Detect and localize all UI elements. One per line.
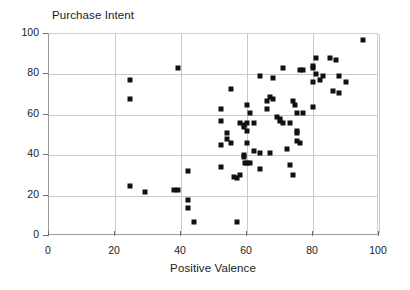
gridline-vertical: [379, 34, 380, 234]
data-point: [251, 149, 256, 154]
data-point: [251, 120, 256, 125]
data-point: [127, 183, 132, 188]
data-point: [218, 118, 223, 123]
data-point: [258, 167, 263, 172]
data-point: [330, 88, 335, 93]
data-point: [311, 104, 316, 109]
data-point: [311, 80, 316, 85]
x-axis-tick-mark: [48, 231, 49, 236]
x-axis-tick-mark: [312, 231, 313, 236]
data-point: [314, 72, 319, 77]
y-axis-tick-mark: [43, 195, 48, 196]
y-axis-tick-label: 20: [27, 188, 39, 200]
data-point: [287, 163, 292, 168]
data-point: [297, 141, 302, 146]
data-point: [311, 66, 316, 71]
data-point: [264, 106, 269, 111]
data-point: [294, 110, 299, 115]
x-axis-tick-label: 40: [166, 244, 194, 256]
data-point: [185, 169, 190, 174]
data-point: [127, 96, 132, 101]
data-point: [245, 141, 250, 146]
data-point: [175, 187, 180, 192]
x-axis-tick-mark: [378, 231, 379, 236]
data-point: [281, 66, 286, 71]
data-point: [228, 86, 233, 91]
data-point: [337, 74, 342, 79]
data-point: [314, 56, 319, 61]
data-point: [292, 102, 297, 107]
data-point: [294, 130, 299, 135]
x-axis-tick-labels: 020406080100: [48, 236, 379, 260]
y-axis-tick-mark: [43, 73, 48, 74]
data-point: [281, 120, 286, 125]
data-point: [258, 74, 263, 79]
data-point: [218, 106, 223, 111]
data-point: [218, 165, 223, 170]
data-point: [241, 155, 246, 160]
data-point: [245, 128, 250, 133]
data-point: [271, 96, 276, 101]
gridline-horizontal: [49, 115, 377, 116]
data-point: [334, 58, 339, 63]
data-point: [245, 102, 250, 107]
gridline-horizontal: [49, 155, 377, 156]
y-axis-tick-labels: 020406080100: [0, 33, 48, 235]
data-point: [225, 130, 230, 135]
x-axis-title: Positive Valence: [48, 262, 378, 274]
y-axis-tick-mark: [43, 33, 48, 34]
gridline-vertical: [247, 34, 248, 234]
gridline-horizontal: [49, 196, 377, 197]
data-point: [291, 173, 296, 178]
x-axis-tick-label: 20: [100, 244, 128, 256]
x-axis-tick-mark: [180, 231, 181, 236]
gridline-vertical: [115, 34, 116, 234]
y-axis-tick-label: 100: [21, 26, 39, 38]
data-point: [268, 151, 273, 156]
y-axis-tick-mark: [43, 114, 48, 115]
data-point: [301, 110, 306, 115]
y-axis-tick-label: 40: [27, 147, 39, 159]
y-axis-tick-label: 80: [27, 66, 39, 78]
data-point: [185, 205, 190, 210]
gridline-horizontal: [49, 74, 377, 75]
data-point: [337, 90, 342, 95]
gridline-vertical: [181, 34, 182, 234]
y-axis-tick-label: 0: [33, 228, 39, 240]
y-axis-tick-label: 60: [27, 107, 39, 119]
data-point: [218, 143, 223, 148]
data-point: [235, 219, 240, 224]
scatter-plot-figure: Purchase Intent 020406080100 02040608010…: [0, 0, 410, 290]
data-point: [301, 68, 306, 73]
data-point: [258, 151, 263, 156]
data-point: [245, 120, 250, 125]
data-point: [344, 80, 349, 85]
x-axis-tick-label: 100: [364, 244, 392, 256]
data-point: [360, 38, 365, 43]
x-axis-tick-label: 80: [298, 244, 326, 256]
x-axis-tick-mark: [246, 231, 247, 236]
data-point: [327, 56, 332, 61]
data-point: [127, 78, 132, 83]
x-axis-tick-label: 60: [232, 244, 260, 256]
data-point: [248, 110, 253, 115]
x-axis-tick-mark: [114, 231, 115, 236]
plot-title: Purchase Intent: [52, 9, 134, 21]
data-point: [320, 74, 325, 79]
data-point: [238, 173, 243, 178]
data-point: [175, 66, 180, 71]
y-axis-tick-mark: [43, 154, 48, 155]
data-point: [228, 141, 233, 146]
plot-area: [48, 33, 378, 235]
data-point: [287, 120, 292, 125]
data-point: [271, 76, 276, 81]
data-point: [142, 189, 147, 194]
data-point: [185, 197, 190, 202]
x-axis-tick-label: 0: [34, 244, 62, 256]
data-point: [192, 219, 197, 224]
data-point: [248, 161, 253, 166]
data-point: [284, 147, 289, 152]
